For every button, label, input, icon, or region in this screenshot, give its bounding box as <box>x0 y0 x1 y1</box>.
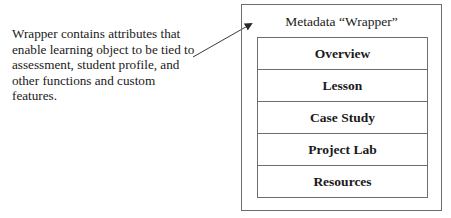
component-case-study: Case Study <box>258 102 427 134</box>
annotation-text: Wrapper contains attributes that enable … <box>12 26 197 104</box>
component-project-lab: Project Lab <box>258 134 427 166</box>
learning-object-components: Overview Lesson Case Study Project Lab R… <box>257 37 428 198</box>
component-overview: Overview <box>258 38 427 70</box>
metadata-wrapper-box: Metadata “Wrapper” Overview Lesson Case … <box>241 4 442 211</box>
wrapper-title: Metadata “Wrapper” <box>242 14 441 30</box>
component-lesson: Lesson <box>258 70 427 102</box>
component-resources: Resources <box>258 166 427 197</box>
